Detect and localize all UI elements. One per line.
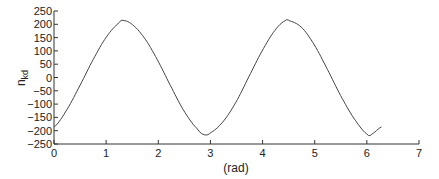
x-tick-label: 3 — [207, 147, 213, 159]
y-tick-label: 100 — [34, 45, 52, 57]
y-tick-label: −200 — [27, 125, 52, 137]
x-tick-label: 2 — [155, 147, 161, 159]
y-tick-label: 250 — [34, 5, 52, 17]
y-axis-label: nkd — [14, 70, 30, 86]
data-line — [54, 20, 381, 136]
x-tick-label: 1 — [103, 147, 109, 159]
y-tick-label: 200 — [34, 18, 52, 30]
y-tick-label: −100 — [27, 98, 52, 110]
x-tick-label: 4 — [260, 147, 266, 159]
x-tick-label: 5 — [312, 147, 318, 159]
y-axis-ticks: 250200150100500−50−100−150−200−250 — [27, 5, 58, 150]
x-tick-label: 6 — [364, 147, 370, 159]
y-tick-label: −150 — [27, 111, 52, 123]
x-tick-label: 0 — [51, 147, 57, 159]
y-tick-label: 0 — [46, 72, 52, 84]
y-tick-label: −50 — [33, 85, 52, 97]
y-tick-label: −250 — [27, 138, 52, 150]
x-axis-label: (rad) — [223, 161, 248, 175]
line-chart: 250200150100500−50−100−150−200−250 01234… — [0, 0, 439, 179]
y-tick-label: 50 — [40, 58, 52, 70]
y-tick-label: 150 — [34, 32, 52, 44]
x-tick-label: 7 — [416, 147, 422, 159]
x-axis-ticks: 01234567 — [51, 140, 422, 159]
